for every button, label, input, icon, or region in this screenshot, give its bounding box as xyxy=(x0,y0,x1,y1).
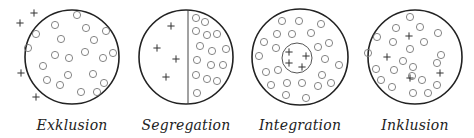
member-circle-icon xyxy=(295,17,302,24)
member-circle-icon xyxy=(77,88,84,95)
member-circle-icon xyxy=(193,56,200,63)
member-circle-icon xyxy=(390,66,397,73)
member-circle-icon xyxy=(288,30,295,37)
member-circle-icon xyxy=(409,89,416,96)
member-circle-icon xyxy=(196,42,203,49)
diagram-exklusion xyxy=(16,9,119,104)
member-circle-icon xyxy=(273,30,280,37)
plus-icon xyxy=(383,53,390,60)
outer-circle xyxy=(139,10,233,104)
diagram-inklusion xyxy=(364,10,462,104)
member-circle-icon xyxy=(207,61,214,68)
member-circle-icon xyxy=(307,29,314,36)
label-inklusion: Inklusion xyxy=(360,117,470,133)
member-circle-icon xyxy=(327,79,334,86)
member-circle-icon xyxy=(408,72,415,79)
member-circle-icon xyxy=(409,63,416,70)
member-circle-icon xyxy=(272,44,279,51)
member-circle-icon xyxy=(208,47,215,54)
member-circle-icon xyxy=(99,54,106,61)
plus-icon xyxy=(298,63,305,70)
diagram-stage: Exklusion Segregation Integration Inklus… xyxy=(0,0,474,138)
member-circle-icon xyxy=(318,71,325,78)
member-circle-icon xyxy=(82,24,89,31)
member-circle-icon xyxy=(81,48,88,55)
member-circle-icon xyxy=(260,38,267,45)
label-integration: Integration xyxy=(245,117,355,133)
member-circle-icon xyxy=(399,57,406,64)
member-circle-icon xyxy=(39,62,46,69)
member-circle-icon xyxy=(317,20,324,27)
member-circle-icon xyxy=(262,68,269,75)
member-circle-icon xyxy=(418,76,425,83)
member-circle-icon xyxy=(193,89,200,96)
member-circle-icon xyxy=(420,38,427,45)
plus-icon xyxy=(17,69,24,76)
member-circle-icon xyxy=(102,27,109,34)
member-circle-icon xyxy=(51,21,58,28)
member-circle-icon xyxy=(282,91,289,98)
member-circle-icon xyxy=(73,11,80,18)
member-circle-icon xyxy=(43,76,50,83)
member-circle-icon xyxy=(203,31,210,38)
plus-icon xyxy=(302,52,309,59)
member-circle-icon xyxy=(56,81,63,88)
member-circle-icon xyxy=(377,76,384,83)
inner-circle xyxy=(282,43,312,73)
member-circle-icon xyxy=(424,89,431,96)
member-circle-icon xyxy=(192,71,199,78)
member-circle-icon xyxy=(32,30,39,37)
plus-icon xyxy=(405,32,412,39)
member-circle-icon xyxy=(222,45,229,52)
plus-icon xyxy=(285,59,292,66)
member-circle-icon xyxy=(283,79,290,86)
member-circle-icon xyxy=(406,45,413,52)
member-circle-icon xyxy=(57,35,64,42)
member-circle-icon xyxy=(392,24,399,31)
member-circle-icon xyxy=(433,59,440,66)
member-circle-icon xyxy=(389,38,396,45)
member-circle-icon xyxy=(219,61,226,68)
member-circle-icon xyxy=(314,82,321,89)
member-circle-icon xyxy=(372,65,379,72)
plus-icon xyxy=(162,73,169,80)
member-circle-icon xyxy=(325,39,332,46)
plus-icon xyxy=(153,44,160,51)
member-circle-icon xyxy=(192,14,199,21)
member-circle-icon xyxy=(93,88,100,95)
member-circle-icon xyxy=(321,55,328,62)
member-circle-icon xyxy=(100,79,107,86)
member-circle-icon xyxy=(298,79,305,86)
member-circle-icon xyxy=(267,81,274,88)
label-segregation: Segregation xyxy=(131,117,241,133)
member-circle-icon xyxy=(203,75,210,82)
member-circle-icon xyxy=(201,18,208,25)
member-circle-icon xyxy=(434,29,441,36)
member-circle-icon xyxy=(90,36,97,43)
member-circle-icon xyxy=(274,66,281,73)
member-circle-icon xyxy=(65,54,72,61)
diagram-integration xyxy=(252,9,348,105)
plus-icon xyxy=(172,55,179,62)
member-circle-icon xyxy=(213,30,220,37)
member-circle-icon xyxy=(89,70,96,77)
plus-icon xyxy=(16,19,23,26)
member-circle-icon xyxy=(335,61,342,68)
member-circle-icon xyxy=(416,23,423,30)
member-circle-icon xyxy=(314,43,321,50)
member-circle-icon xyxy=(255,52,262,59)
plus-icon xyxy=(406,74,413,81)
member-circle-icon xyxy=(64,71,71,78)
label-exklusion: Exklusion xyxy=(17,117,127,133)
outer-circle xyxy=(252,9,348,105)
member-circle-icon xyxy=(433,81,440,88)
member-circle-icon xyxy=(406,13,413,20)
member-circle-icon xyxy=(373,33,380,40)
member-circle-icon xyxy=(51,51,58,58)
plus-icon xyxy=(436,69,443,76)
member-circle-icon xyxy=(302,94,309,101)
plus-icon xyxy=(30,9,37,16)
member-circle-icon xyxy=(437,51,444,58)
plus-icon xyxy=(32,93,39,100)
member-circle-icon xyxy=(192,27,199,34)
